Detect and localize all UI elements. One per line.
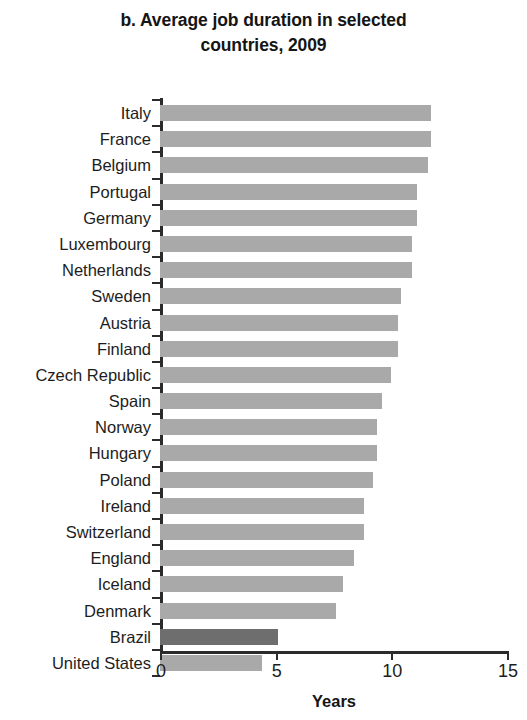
y-axis-tick	[152, 361, 160, 363]
bar	[160, 445, 377, 461]
bar	[160, 603, 336, 619]
y-axis-category-label: Portugal	[0, 179, 151, 205]
bar	[160, 341, 398, 357]
y-axis-tick	[152, 413, 160, 415]
bar-row: Norway	[160, 414, 507, 440]
y-axis-category-label: France	[0, 126, 151, 152]
y-axis-tick	[152, 387, 160, 389]
y-axis-tick	[152, 466, 160, 468]
y-axis-category-label: Finland	[0, 336, 151, 362]
bar-row: Brazil	[160, 624, 507, 650]
y-axis-category-label: Spain	[0, 388, 151, 414]
y-axis-tick	[152, 309, 160, 311]
y-axis-category-label: Germany	[0, 205, 151, 231]
bar-row: Austria	[160, 310, 507, 336]
chart-title-line-2: countries, 2009	[0, 33, 527, 58]
bar-row: Luxembourg	[160, 231, 507, 257]
bar	[160, 105, 431, 121]
y-axis-category-label: Belgium	[0, 152, 151, 178]
y-axis-tick	[152, 597, 160, 599]
y-axis-tick	[152, 256, 160, 258]
y-axis-category-label: Czech Republic	[0, 362, 151, 388]
y-axis-category-label: Italy	[0, 100, 151, 126]
y-axis-tick	[152, 623, 160, 625]
bar-row: Sweden	[160, 283, 507, 309]
y-axis-category-label: England	[0, 545, 151, 571]
y-axis-category-label: Sweden	[0, 283, 151, 309]
x-axis-tick	[276, 651, 278, 660]
bar-row: Czech Republic	[160, 362, 507, 388]
bar-row: Finland	[160, 336, 507, 362]
bar-row: Netherlands	[160, 257, 507, 283]
bar	[160, 524, 364, 540]
bar-row: Switzerland	[160, 519, 507, 545]
bar-row: Hungary	[160, 440, 507, 466]
bar	[160, 472, 373, 488]
bar-row: Ireland	[160, 493, 507, 519]
y-axis-category-label: Ireland	[0, 493, 151, 519]
bar-row: United States	[160, 650, 507, 676]
y-axis-category-label: Poland	[0, 467, 151, 493]
chart-title: b. Average job duration in selected coun…	[0, 8, 527, 58]
x-axis-tick	[507, 651, 509, 660]
y-axis-category-label: Hungary	[0, 440, 151, 466]
y-axis-category-label: United States	[0, 650, 151, 676]
x-axis-tick-label: 15	[488, 661, 527, 682]
bar	[160, 210, 417, 226]
bar-row: Portugal	[160, 179, 507, 205]
y-axis-tick	[152, 151, 160, 153]
y-axis-tick	[152, 544, 160, 546]
bar-row: France	[160, 126, 507, 152]
bar	[160, 184, 417, 200]
y-axis-tick	[152, 125, 160, 127]
bar	[160, 288, 401, 304]
bar	[160, 367, 391, 383]
bar-row: Spain	[160, 388, 507, 414]
y-axis-tick	[152, 570, 160, 572]
y-axis-tick	[152, 492, 160, 494]
y-axis-category-label: Austria	[0, 310, 151, 336]
y-axis-category-label: Netherlands	[0, 257, 151, 283]
x-axis-tick-label: 5	[257, 661, 297, 682]
bar-row: Poland	[160, 467, 507, 493]
y-axis-category-label: Brazil	[0, 624, 151, 650]
x-axis-tick-label: 10	[372, 661, 412, 682]
y-axis-tick	[152, 99, 160, 101]
bar-chart-plot-area: ItalyFranceBelgiumPortugalGermanyLuxembo…	[160, 100, 507, 651]
y-axis-tick	[152, 649, 160, 651]
bar	[160, 550, 354, 566]
x-axis-tick-label: 0	[141, 661, 181, 682]
y-axis-tick	[152, 335, 160, 337]
bar	[160, 576, 343, 592]
bar-row: England	[160, 545, 507, 571]
bar	[160, 629, 278, 645]
y-axis-category-label: Norway	[0, 414, 151, 440]
bar-row: Germany	[160, 205, 507, 231]
y-axis-category-label: Iceland	[0, 571, 151, 597]
x-axis-tick	[160, 651, 162, 660]
bar-row: Belgium	[160, 152, 507, 178]
bar	[160, 236, 412, 252]
chart-title-line-1: b. Average job duration in selected	[0, 8, 527, 33]
bar	[160, 157, 428, 173]
bar	[160, 315, 398, 331]
bar-row: Denmark	[160, 598, 507, 624]
bar	[160, 131, 431, 147]
bar-row: Iceland	[160, 571, 507, 597]
x-axis-title: Years	[160, 692, 508, 711]
x-axis-tick	[391, 651, 393, 660]
y-axis-tick	[152, 204, 160, 206]
bar-row: Italy	[160, 100, 507, 126]
y-axis-tick	[152, 282, 160, 284]
bar	[160, 419, 377, 435]
y-axis-tick	[152, 178, 160, 180]
y-axis-tick	[152, 439, 160, 441]
y-axis-category-label: Luxembourg	[0, 231, 151, 257]
y-axis-tick	[152, 518, 160, 520]
bar	[160, 262, 412, 278]
y-axis-tick	[152, 230, 160, 232]
y-axis-category-label: Denmark	[0, 598, 151, 624]
bar	[160, 498, 364, 514]
y-axis-category-label: Switzerland	[0, 519, 151, 545]
bar	[160, 393, 382, 409]
